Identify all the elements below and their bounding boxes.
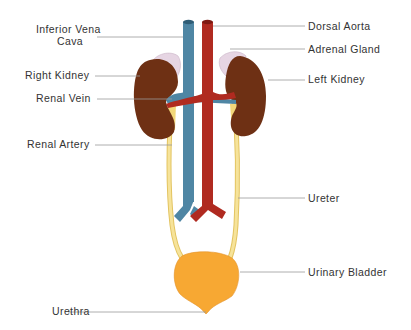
- label-inferior-vena-cava-1: Inferior Vena: [36, 23, 101, 35]
- label-right-kidney: Right Kidney: [25, 69, 90, 81]
- label-renal-vein: Renal Vein: [36, 92, 91, 104]
- urinary-bladder: [174, 252, 239, 314]
- label-urethra: Urethra: [52, 305, 90, 317]
- dorsal-aorta: [166, 20, 236, 222]
- label-inferior-vena-cava-2: Cava: [57, 35, 83, 47]
- inferior-vena-cava: [166, 20, 236, 222]
- label-adrenal-gland: Adrenal Gland: [308, 43, 380, 55]
- label-ureter: Ureter: [308, 192, 340, 204]
- label-left-kidney: Left Kidney: [308, 73, 365, 85]
- urinary-system-diagram: Inferior Vena Cava Right Kidney Renal Ve…: [0, 0, 411, 330]
- label-urinary-bladder: Urinary Bladder: [308, 266, 387, 278]
- label-dorsal-aorta: Dorsal Aorta: [308, 20, 371, 32]
- label-renal-artery: Renal Artery: [27, 138, 90, 150]
